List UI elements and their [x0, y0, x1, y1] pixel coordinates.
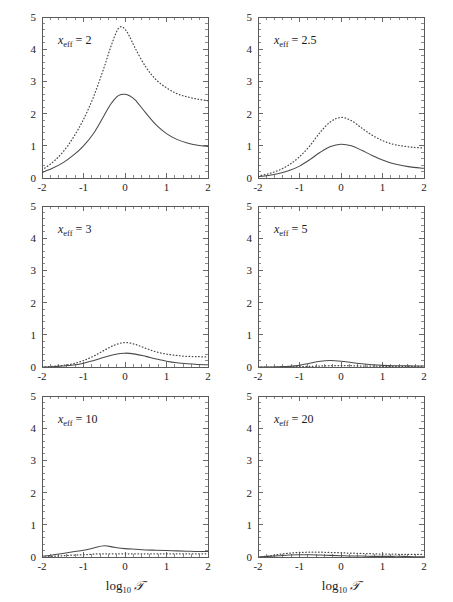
- x-tick-label: 0: [122, 181, 128, 193]
- x-tick-label: 2: [421, 181, 427, 193]
- y-tick-label: 0: [247, 361, 253, 373]
- y-tick-label: 3: [31, 454, 37, 466]
- x-tick-label: -2: [37, 181, 46, 193]
- x-tick-label: -2: [253, 370, 262, 382]
- x-tick-label: -2: [253, 181, 262, 193]
- y-tick-label: 1: [31, 140, 37, 152]
- y-tick-label: 3: [31, 75, 37, 87]
- y-tick-label: 0: [247, 172, 253, 184]
- panel-label: xeff = 20: [273, 412, 313, 428]
- panel-label: xeff = 2: [57, 33, 91, 49]
- x-axis-title: log10 𝒯: [322, 578, 364, 595]
- x-axis-title-prefix: log: [322, 578, 339, 593]
- panel-label-subscript: eff: [279, 228, 288, 238]
- x-axis-title-subscript: 10: [338, 585, 347, 595]
- y-tick-label: 5: [247, 11, 253, 23]
- x-tick-label: 0: [122, 370, 128, 382]
- panel-xeff-5: -2-1012012345xeff = 5: [247, 200, 427, 382]
- y-tick-label: 3: [247, 454, 253, 466]
- y-tick-label: 1: [247, 329, 253, 341]
- panel-label: xeff = 5: [273, 222, 307, 238]
- x-axis-title-prefix: log: [106, 578, 123, 593]
- figure-canvas: -2-1012012345xeff = 2-2-1012012345xeff =…: [0, 0, 453, 602]
- x-axis-title-symbol: 𝒯: [131, 578, 148, 593]
- x-tick-label: -1: [295, 560, 304, 572]
- x-axis-title-subscript: 10: [122, 585, 131, 595]
- panel-xeff-2p5: -2-1012012345xeff = 2.5: [247, 11, 427, 193]
- y-tick-label: 1: [247, 140, 253, 152]
- series-solid: [42, 94, 208, 172]
- y-tick-label: 2: [247, 487, 253, 499]
- panel-label-subscript: eff: [63, 228, 72, 238]
- x-tick-label: -1: [79, 370, 88, 382]
- y-tick-label: 1: [31, 519, 37, 531]
- y-tick-label: 4: [31, 43, 37, 55]
- y-tick-label: 2: [247, 297, 253, 309]
- x-axis-title-symbol: 𝒯: [347, 578, 364, 593]
- panel-xeff-10: -2-1012012345xeff = 10: [31, 390, 211, 572]
- x-tick-label: 1: [164, 181, 170, 193]
- panel-label-subscript: eff: [279, 39, 288, 49]
- x-tick-label: 2: [205, 181, 211, 193]
- x-tick-label: 1: [164, 560, 170, 572]
- series-dotted: [258, 117, 424, 176]
- y-tick-label: 0: [31, 551, 37, 563]
- panel-label-subscript: eff: [63, 418, 72, 428]
- y-tick-label: 1: [31, 329, 37, 341]
- x-tick-label: 1: [380, 560, 386, 572]
- panel-label: xeff = 3: [57, 222, 91, 238]
- y-tick-label: 3: [247, 264, 253, 276]
- svg-text:log10 𝒯: log10 𝒯: [322, 578, 364, 595]
- y-tick-label: 2: [31, 487, 37, 499]
- panel-label-value: = 2.5: [289, 33, 317, 47]
- y-tick-label: 0: [31, 172, 37, 184]
- y-tick-label: 1: [247, 519, 253, 531]
- y-tick-label: 5: [247, 200, 253, 212]
- x-tick-label: 2: [205, 560, 211, 572]
- y-tick-label: 4: [31, 232, 37, 244]
- panel-xeff-20: -2-1012012345xeff = 20: [247, 390, 427, 572]
- panel-label-value: = 2: [73, 33, 92, 47]
- x-tick-label: 2: [205, 370, 211, 382]
- x-axis-title: log10 𝒯: [106, 578, 148, 595]
- y-tick-label: 4: [247, 43, 253, 55]
- panel-label-subscript: eff: [279, 418, 288, 428]
- x-tick-label: 1: [380, 370, 386, 382]
- x-tick-label: 1: [164, 370, 170, 382]
- x-tick-label: 2: [421, 370, 427, 382]
- panel-label-value: = 10: [73, 412, 98, 426]
- y-tick-label: 5: [247, 390, 253, 402]
- six-panel-line-chart: -2-1012012345xeff = 2-2-1012012345xeff =…: [0, 0, 453, 602]
- y-tick-label: 0: [247, 551, 253, 563]
- panel-xeff-3: -2-1012012345xeff = 3: [31, 200, 211, 382]
- x-tick-label: 0: [338, 370, 344, 382]
- panel-curves: [258, 117, 424, 176]
- x-tick-label: 0: [122, 560, 128, 572]
- x-tick-label: -2: [37, 370, 46, 382]
- panel-label: xeff = 2.5: [273, 33, 316, 49]
- panel-label-value: = 5: [289, 222, 308, 236]
- x-tick-label: 0: [338, 560, 344, 572]
- series-solid: [258, 144, 424, 177]
- y-tick-label: 5: [31, 11, 37, 23]
- panel-label: xeff = 10: [57, 412, 97, 428]
- panel-label-value: = 3: [73, 222, 92, 236]
- y-tick-label: 0: [31, 361, 37, 373]
- y-tick-label: 4: [247, 232, 253, 244]
- panel-label-value: = 20: [289, 412, 314, 426]
- panel-label-subscript: eff: [63, 39, 72, 49]
- x-tick-label: -1: [295, 370, 304, 382]
- y-tick-label: 3: [31, 264, 37, 276]
- panel-xeff-2: -2-1012012345xeff = 2: [31, 11, 211, 193]
- y-tick-label: 4: [31, 422, 37, 434]
- y-tick-label: 2: [31, 297, 37, 309]
- y-tick-label: 4: [247, 422, 253, 434]
- y-tick-label: 2: [31, 108, 37, 120]
- x-tick-label: -1: [79, 181, 88, 193]
- y-tick-label: 3: [247, 75, 253, 87]
- x-tick-label: -1: [295, 181, 304, 193]
- y-tick-label: 2: [247, 108, 253, 120]
- x-tick-label: -2: [37, 560, 46, 572]
- x-tick-label: -2: [253, 560, 262, 572]
- svg-text:log10 𝒯: log10 𝒯: [106, 578, 148, 595]
